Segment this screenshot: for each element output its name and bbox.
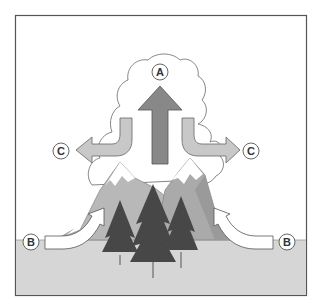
label-a: A (152, 64, 168, 80)
label-b-left: B (23, 234, 39, 250)
label-b-right: B (279, 234, 295, 250)
svg-text:A: A (156, 66, 164, 78)
svg-text:C: C (57, 145, 65, 157)
svg-text:B: B (283, 236, 291, 248)
svg-text:B: B (27, 236, 35, 248)
orographic-lift-diagram: A C C B B (0, 0, 317, 307)
svg-text:C: C (247, 145, 255, 157)
label-c-left: C (53, 143, 69, 159)
label-c-right: C (243, 143, 259, 159)
